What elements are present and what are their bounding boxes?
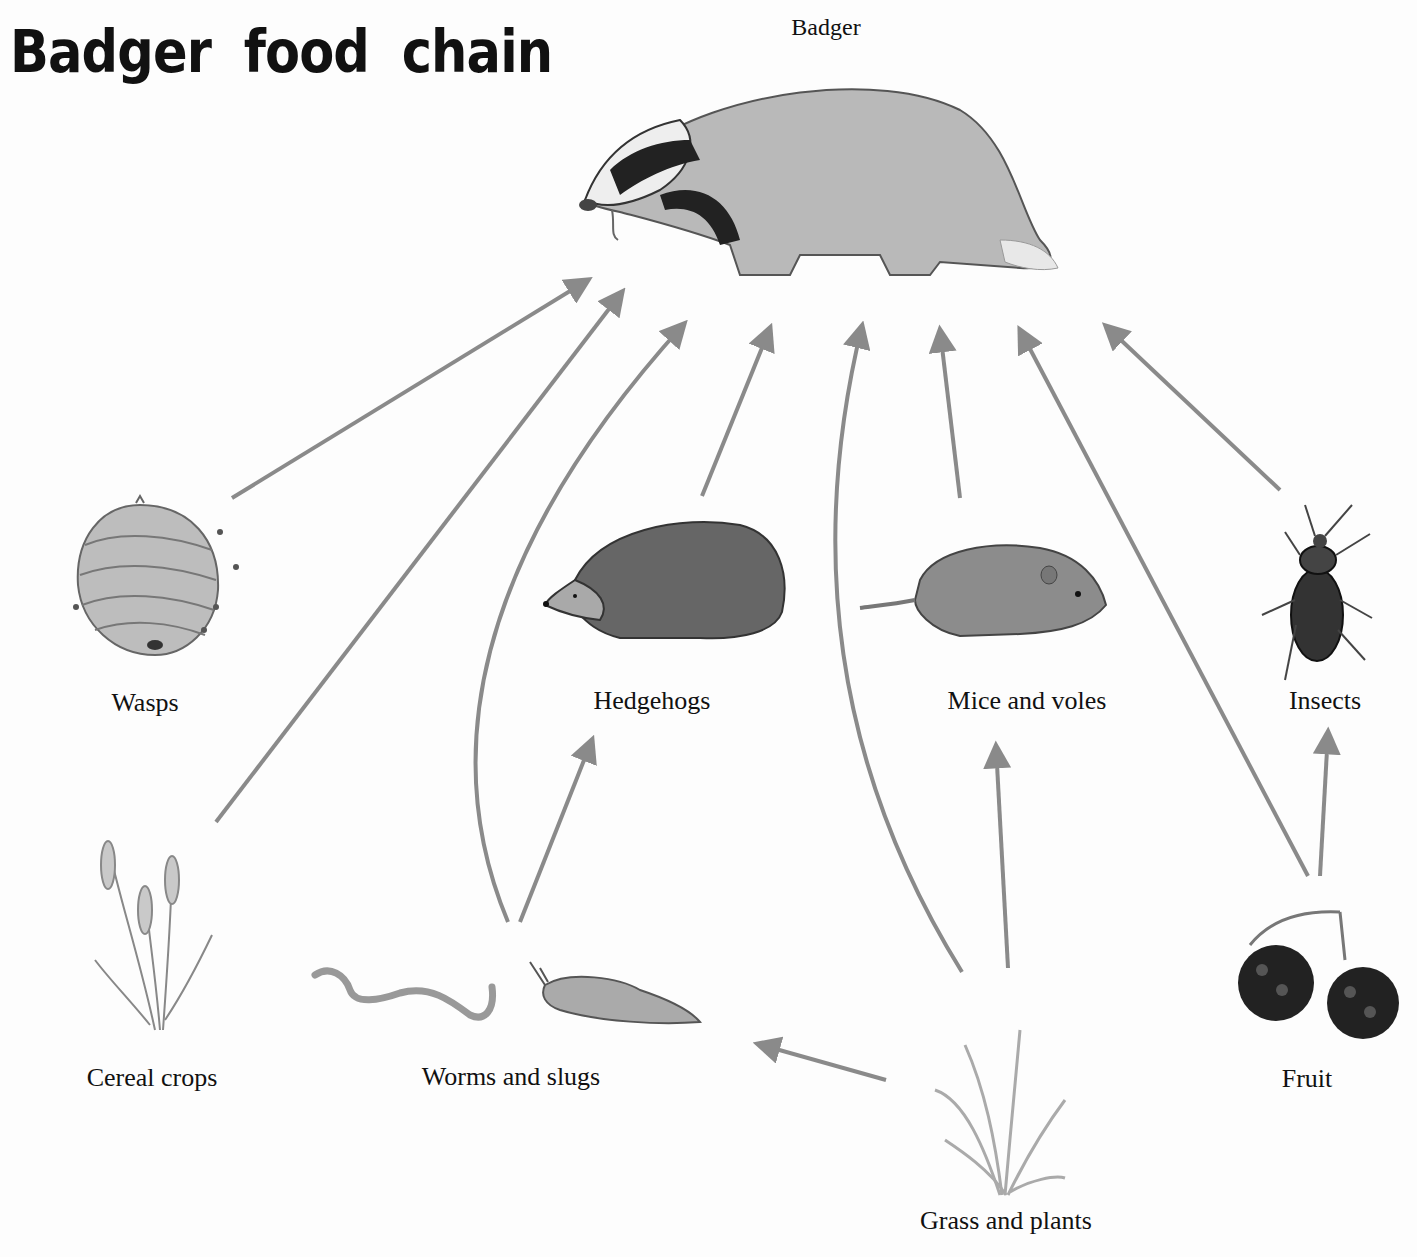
vole-illustration	[860, 545, 1106, 636]
arrow-worms-hedgehogs	[520, 740, 592, 922]
food-chain-diagram: Badger food chain	[0, 0, 1417, 1257]
arrow-cereal-badger	[216, 292, 622, 822]
wheat-illustration	[95, 841, 212, 1030]
arrow-fruit-insects	[1320, 732, 1328, 876]
beetle-illustration	[1262, 505, 1372, 680]
arrow-grass-badger	[835, 326, 962, 972]
blackberry-illustration	[1238, 912, 1399, 1039]
label-hedgehogs: Hedgehogs	[594, 686, 711, 716]
label-insects: Insects	[1289, 686, 1361, 716]
grass-illustration	[935, 1030, 1065, 1195]
hedgehog-illustration	[543, 522, 785, 638]
label-mice-voles: Mice and voles	[948, 686, 1107, 716]
wasp-nest-illustration	[73, 496, 239, 655]
label-grass-plants: Grass and plants	[920, 1206, 1092, 1236]
arrow-hedgehogs-badger	[702, 328, 770, 496]
worm-slug-illustration	[315, 962, 700, 1023]
badger-illustration	[579, 89, 1058, 275]
arrow-mice-badger	[940, 330, 960, 498]
arrow-grass-worms	[758, 1044, 886, 1080]
arrow-wasps-badger	[232, 280, 588, 498]
arrow-grass-mice	[996, 746, 1008, 968]
label-wasps: Wasps	[111, 688, 178, 718]
label-fruit: Fruit	[1282, 1064, 1333, 1094]
label-badger: Badger	[791, 14, 860, 41]
label-worms-slugs: Worms and slugs	[422, 1062, 600, 1092]
label-cereal-crops: Cereal crops	[87, 1063, 218, 1093]
arrow-insects-badger	[1106, 326, 1280, 490]
